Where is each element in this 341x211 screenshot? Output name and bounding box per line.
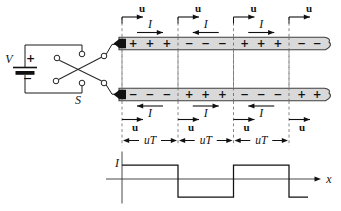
velocity-arrow-top-head (304, 15, 310, 20)
charge-symbol-top: + (162, 37, 171, 49)
current-arrow-bottom-head (248, 104, 254, 109)
charge-symbol-top: + (257, 37, 266, 49)
charge-symbol-top: − (297, 37, 306, 49)
wire-battery-bottom (25, 75, 82, 93)
switch-terminal (53, 78, 59, 84)
current-label-top: I (258, 17, 264, 31)
charge-symbol-bottom: − (273, 88, 282, 100)
velocity-label-bottom: u (132, 121, 138, 133)
charge-symbol-bottom: + (313, 88, 322, 100)
switch-terminal (101, 80, 107, 86)
charge-symbol-bottom: − (129, 88, 138, 100)
charge-symbol-bottom: − (162, 88, 171, 100)
switch-blade-cross-1 (59, 60, 101, 81)
transmission-line-figure: V + − S uuuuuuuu+++−−−II−−−+++II+++−−−II… (0, 0, 341, 211)
current-label-bottom: I (203, 106, 209, 120)
segment-dim-head (179, 138, 185, 143)
segment-dim-head (123, 138, 129, 143)
charge-symbol-bottom: − (146, 88, 155, 100)
graph-x-label: x (325, 172, 332, 186)
current-graph: I x (106, 152, 332, 204)
current-waveform (122, 165, 308, 197)
current-arrow-bottom-head (213, 104, 219, 109)
charge-symbol-top: − (201, 37, 210, 49)
top-feed-cap (114, 39, 127, 48)
segment-length-label: uT (144, 134, 158, 146)
charge-symbol-bottom: + (218, 88, 227, 100)
switch-terminal (79, 80, 85, 86)
figure-canvas: V + − S uuuuuuuu+++−−−II−−−+++II+++−−−II… (0, 0, 341, 211)
switch-terminal (54, 55, 60, 61)
switch-terminal (101, 53, 107, 59)
current-label-bottom: I (147, 106, 153, 120)
velocity-label-top: u (306, 2, 312, 14)
charge-symbol-bottom: + (185, 88, 194, 100)
velocity-label-bottom: u (299, 121, 305, 133)
current-arrow-top-head (268, 30, 274, 35)
graph-waveform (122, 165, 308, 197)
velocity-label-top: u (139, 2, 145, 14)
battery-minus-sign: − (23, 72, 32, 85)
segment-dim-head (235, 138, 241, 143)
velocity-label-bottom: u (188, 121, 194, 133)
velocity-arrow-top-head (137, 15, 143, 20)
charge-symbol-bottom: + (297, 88, 306, 100)
switch-terminal (79, 51, 85, 57)
switch-blade-cross-2 (59, 57, 102, 79)
x-axis-arrowhead (315, 177, 322, 182)
current-label-top: I (203, 17, 209, 31)
bottom-feed-cap (114, 90, 127, 99)
charge-symbol-bottom: − (240, 88, 249, 100)
segment-length-label: uT (200, 134, 214, 146)
charge-symbol-top: + (129, 37, 138, 49)
line-annotations: uuuuuuuu+++−−−II−−−+++II+++−−−II−−++uTuT… (122, 2, 322, 146)
charge-symbol-top: + (273, 37, 282, 49)
current-arrow-bottom-head (137, 104, 143, 109)
charge-symbol-top: − (218, 37, 227, 49)
velocity-label-top: u (195, 2, 201, 14)
segment-dim-head (282, 138, 288, 143)
velocity-arrow-top-head (248, 15, 254, 20)
velocity-arrow-top-head (193, 15, 199, 20)
charge-symbol-top: + (240, 37, 249, 49)
charge-symbol-bottom: + (201, 88, 210, 100)
current-arrow-top-head (193, 30, 199, 35)
switch-label: S (75, 93, 81, 107)
segment-dim-head (171, 138, 177, 143)
velocity-label-bottom: u (243, 121, 249, 133)
graph-y-label: I (114, 156, 120, 170)
segment-length-label: uT (255, 134, 269, 146)
charge-symbol-top: + (146, 37, 155, 49)
current-label-top: I (147, 17, 153, 31)
charge-symbol-top: − (185, 37, 194, 49)
source-voltage-label: V (5, 52, 14, 66)
feed-caps (114, 39, 127, 99)
battery-plus-sign: + (26, 52, 35, 65)
voltage-source: V + − (5, 45, 82, 93)
current-label-bottom: I (258, 106, 264, 120)
current-arrow-top-head (157, 30, 163, 35)
charge-symbol-bottom: − (257, 88, 266, 100)
segment-dim-head (226, 138, 232, 143)
velocity-label-top: u (250, 2, 256, 14)
reversing-switch: S (53, 44, 119, 107)
charge-symbol-top: − (313, 37, 322, 49)
